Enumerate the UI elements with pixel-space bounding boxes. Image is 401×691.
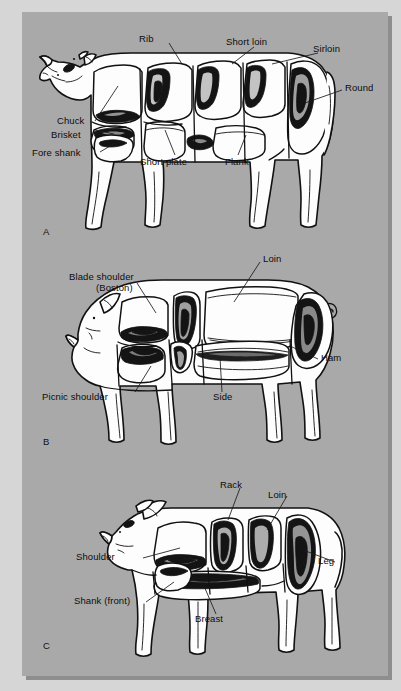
- lamb-illustration: [22, 460, 388, 676]
- panel-letter-a: A: [43, 226, 49, 237]
- label-breast: Breast: [195, 614, 223, 625]
- label-loin: Loin: [268, 490, 286, 501]
- label-brisket: Brisket: [51, 130, 81, 141]
- pork-carcass-diagram: Blade shoulder (Boston) Loin Ham Side Pi…: [22, 240, 388, 455]
- label-picnic-shoulder: Picnic shoulder: [42, 392, 108, 403]
- label-short-plate: Short plate: [140, 157, 187, 168]
- lamb-carcass-diagram: Rack Loin Leg Shoulder Shank (front) Bre…: [22, 460, 388, 676]
- label-loin: Loin: [263, 254, 281, 265]
- label-shank-front: Shank (front): [74, 596, 130, 607]
- figure-page: Rib Short loin Sirloin Round Chuck Brisk…: [0, 0, 401, 691]
- label-leg: Leg: [318, 556, 334, 567]
- label-blade-shoulder-boston: (Boston): [96, 283, 133, 294]
- label-fore-shank: Fore shank: [32, 148, 81, 159]
- label-short-loin: Short loin: [226, 37, 267, 48]
- beef-carcass-diagram: Rib Short loin Sirloin Round Chuck Brisk…: [22, 12, 388, 242]
- label-rib: Rib: [139, 34, 154, 45]
- label-chuck: Chuck: [57, 116, 84, 127]
- label-ham: Ham: [321, 353, 341, 364]
- label-rack: Rack: [220, 480, 242, 491]
- label-flank: Flank: [225, 157, 249, 168]
- panel-letter-c: C: [43, 640, 50, 651]
- label-shoulder: Shoulder: [76, 552, 115, 563]
- illustration-plate: Rib Short loin Sirloin Round Chuck Brisk…: [22, 12, 388, 676]
- label-sirloin: Sirloin: [313, 44, 340, 55]
- label-side: Side: [213, 392, 232, 403]
- label-round: Round: [345, 83, 374, 94]
- panel-letter-b: B: [43, 436, 49, 447]
